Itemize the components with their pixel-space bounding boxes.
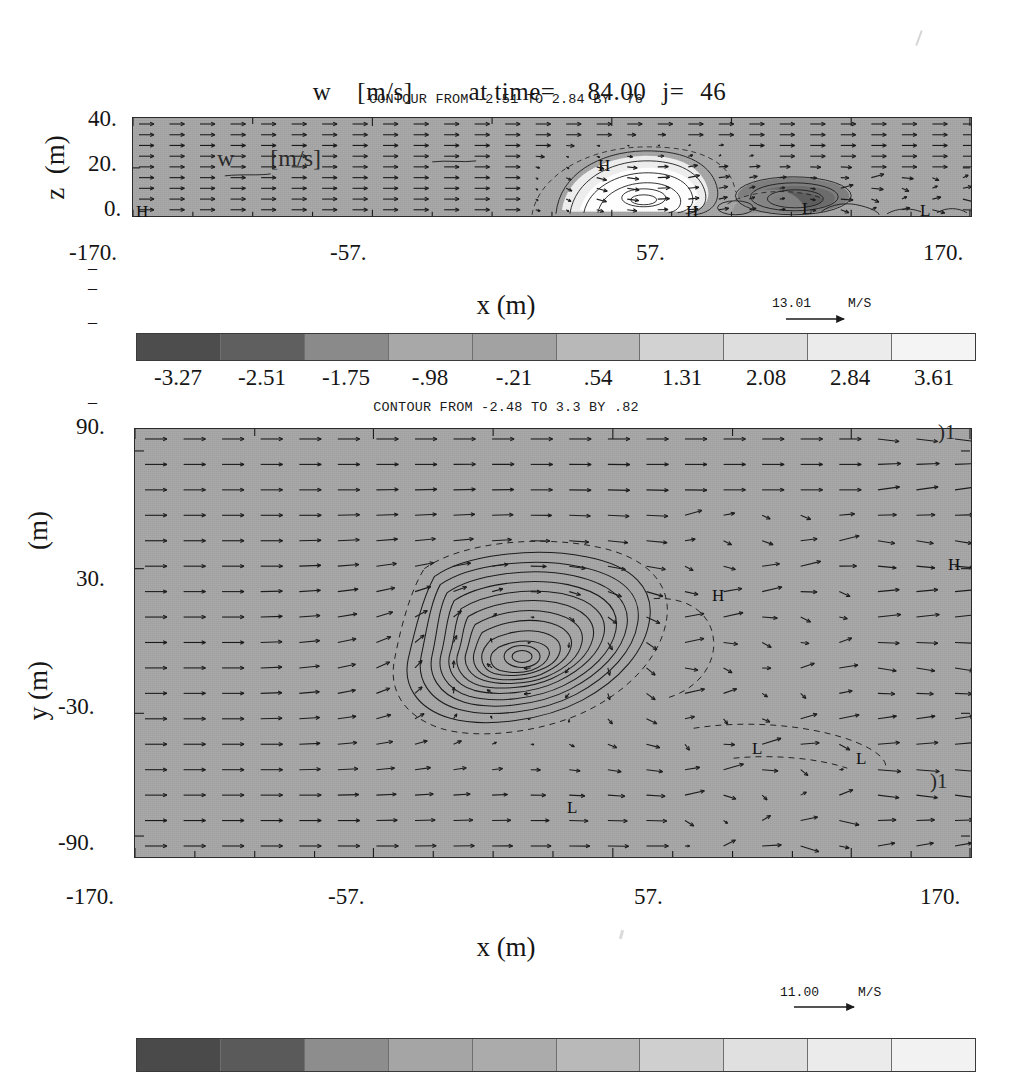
contour-note-xz: CONTOUR FROM -2.51 TO 2.84 BY 76 [0, 92, 1012, 107]
colorbar-swatch [473, 334, 557, 360]
xtick-xz-2: -57. [330, 240, 366, 266]
colorbar-swatch [724, 334, 808, 360]
edge-label-xy-top: )1 [938, 420, 956, 445]
colorbar-swatch [557, 334, 641, 360]
ytick-xy-m90: -90. [58, 830, 94, 856]
xtick-xz-4: 170. [923, 240, 963, 266]
contour-note-xy: CONTOUR FROM -2.48 TO 3.3 BY .82 [0, 400, 1012, 415]
ytick-xz-20: 20. [88, 151, 117, 177]
extremum-H-xz-3: H [686, 203, 698, 220]
plot-xy-crosssection[interactable] [134, 428, 972, 858]
extremum-H-xy-1: H [712, 587, 724, 604]
xtick-xy-1: -170. [66, 884, 114, 910]
xtick-xy-4: 170. [920, 884, 960, 910]
colorbar-swatch [640, 334, 724, 360]
artifact-dash-3: – [88, 312, 97, 333]
colorbar-swatch [808, 334, 892, 360]
xlabel-xy: x (m) [0, 932, 1012, 963]
extremum-H-xz-1: H [136, 203, 148, 220]
plot-xy-graphics [135, 429, 971, 858]
vector-key-unit-xz: M/S [848, 296, 871, 311]
ylabel-xy: y (m) [23, 631, 54, 751]
extremum-H-xy-2: H [948, 556, 960, 573]
xtick-xy-3: 57. [634, 884, 663, 910]
ytick-xy-m30: -30. [58, 694, 94, 720]
colorbar-swatch [305, 334, 389, 360]
vector-key-xz: 13.01 M/S [770, 296, 900, 330]
colorbar-swatch [137, 334, 221, 360]
artifact-dash-1: – [88, 258, 97, 279]
colorbar-swatch [557, 1039, 641, 1071]
plot-xz-crosssection[interactable]: w [m/s] [132, 117, 972, 217]
vector-key-value-xz: 13.01 [772, 296, 811, 311]
xtick-xz-3: 57. [636, 240, 665, 266]
extremum-L-xy-1: L [567, 799, 577, 816]
colorbar-swatch [892, 334, 975, 360]
extremum-L-xz-2: L [920, 202, 930, 219]
colorbar-swatch [305, 1039, 389, 1071]
colorbar-swatch [808, 1039, 892, 1071]
colorbar-swatch [724, 1039, 808, 1071]
edge-label-xy-bottom: )1 [930, 769, 948, 794]
colorbar-swatch [389, 1039, 473, 1071]
ytick-xz-40: 40. [88, 106, 117, 132]
vector-key-arrow-xz [770, 310, 900, 334]
colorbar-tick-label: 3.61 [874, 365, 994, 391]
extremum-L-xz-1: L [802, 200, 812, 217]
ylabel-xy-unit: (m) [23, 471, 54, 591]
extremum-L-xy-2: L [752, 740, 762, 757]
colorbar-swatch [473, 1039, 557, 1071]
colorbar-swatch [221, 1039, 305, 1071]
colorbar-swatch [640, 1039, 724, 1071]
colorbar-swatch [892, 1039, 975, 1071]
colorbar-swatch [137, 1039, 221, 1071]
colorbar-bottom[interactable] [136, 1038, 976, 1072]
ylabel-xz: z (m) [40, 108, 71, 228]
figure-canvas: w[m/s]at time=84.00j=46 CONTOUR FROM -2.… [0, 0, 1012, 1072]
ghost-title-xz: w [m/s] [217, 145, 321, 172]
colorbar-top[interactable] [136, 333, 976, 361]
ytick-xz-0: 0. [104, 196, 121, 222]
artifact-dash-2: – [88, 278, 97, 299]
colorbar-swatch [389, 334, 473, 360]
ytick-xy-30: 30. [76, 566, 105, 592]
xtick-xy-2: -57. [328, 884, 364, 910]
ytick-xy-90: 90. [76, 414, 105, 440]
vector-key-xy: 11.00 M/S [778, 985, 918, 1019]
extremum-L-xy-3: L [856, 750, 866, 767]
extremum-H-xz-2: H [598, 157, 610, 174]
scan-speck-1 [915, 30, 922, 46]
vector-key-arrow-xy [778, 998, 918, 1022]
colorbar-swatch [221, 334, 305, 360]
